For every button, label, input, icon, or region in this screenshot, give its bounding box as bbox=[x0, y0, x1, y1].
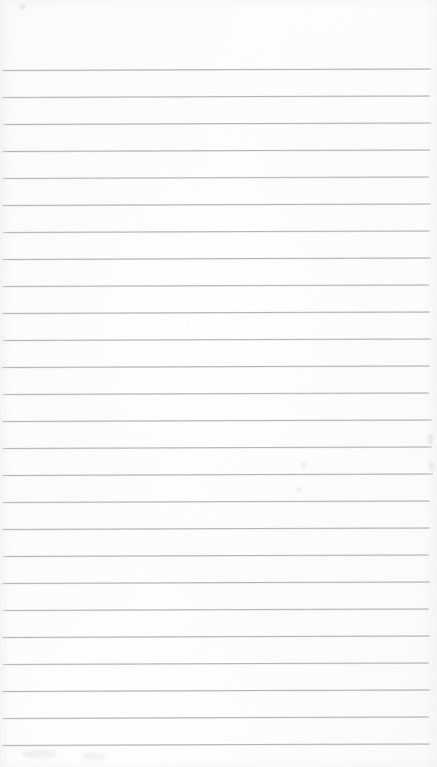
ruled-lines-group bbox=[0, 0, 437, 767]
rule-line bbox=[3, 338, 431, 341]
rule-line bbox=[2, 365, 430, 368]
rule-line bbox=[3, 392, 429, 395]
rule-line bbox=[2, 581, 430, 584]
rule-line bbox=[3, 500, 430, 503]
rule-line bbox=[2, 689, 430, 692]
rule-line bbox=[3, 230, 430, 233]
rule-line bbox=[2, 257, 431, 260]
rule-line bbox=[2, 95, 430, 98]
rule-line bbox=[2, 203, 431, 206]
rule-line bbox=[3, 554, 429, 557]
rule-line bbox=[2, 527, 430, 530]
rule-line bbox=[2, 149, 430, 152]
rule-line bbox=[3, 176, 429, 179]
rule-line bbox=[2, 419, 432, 422]
rule-line bbox=[2, 473, 433, 476]
rule-line bbox=[2, 311, 430, 314]
rule-line bbox=[3, 716, 429, 719]
rule-line bbox=[3, 122, 431, 125]
rule-line bbox=[3, 608, 429, 611]
rule-line bbox=[3, 284, 429, 287]
scanned-page bbox=[0, 0, 437, 767]
rule-line bbox=[3, 662, 429, 665]
rule-line bbox=[2, 68, 431, 71]
rule-line bbox=[3, 446, 432, 449]
rule-line bbox=[2, 743, 430, 746]
rule-line bbox=[2, 635, 430, 638]
